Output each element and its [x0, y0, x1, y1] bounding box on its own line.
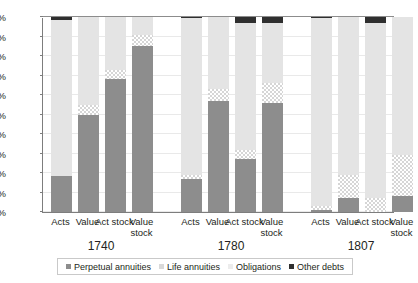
bar-segment-life	[262, 83, 283, 103]
bar-segment-obligations	[78, 17, 99, 105]
bar-segment-life	[208, 89, 229, 101]
bar-segment-obligations	[208, 17, 229, 89]
bar-segment-perpetual	[338, 198, 359, 212]
bar-segment-life	[78, 105, 99, 115]
x-axis-group-label-1780: 1780	[171, 239, 291, 253]
legend-item-obligations[interactable]: Obligations	[228, 262, 281, 272]
legend-label: Perpetual annuities	[74, 262, 151, 272]
y-axis-tick-70	[40, 75, 43, 76]
bar-segment-perpetual	[51, 176, 72, 212]
y-axis-tick-label-50: 50%	[0, 111, 6, 121]
bar-segment-obligations	[132, 17, 153, 35]
bar-1740-act-stock[interactable]	[105, 17, 126, 212]
legend-label: Obligations	[236, 262, 281, 272]
legend-item-life[interactable]: Life annuities	[159, 262, 220, 272]
y-axis-tick-30	[40, 153, 43, 154]
bar-segment-perpetual	[208, 101, 229, 212]
y-axis-tick-label-70: 70%	[0, 72, 6, 82]
legend-swatch-perpetual-icon	[66, 264, 71, 269]
bar-1740-acts[interactable]	[51, 17, 72, 212]
bar-segment-obligations	[365, 23, 386, 199]
x-axis-category-label: Value stock	[382, 217, 418, 238]
bar-1807-acts[interactable]	[311, 17, 332, 212]
legend-item-other[interactable]: Other debts	[289, 262, 344, 272]
plot-area	[42, 18, 394, 213]
chart-legend: Perpetual annuitiesLife annuitiesObligat…	[57, 258, 353, 275]
bar-segment-life	[132, 35, 153, 47]
legend-item-perpetual[interactable]: Perpetual annuities	[66, 262, 151, 272]
bar-segment-obligations	[338, 17, 359, 175]
x-axis-group-label-1740: 1740	[41, 239, 161, 253]
bar-1740-value[interactable]	[78, 17, 99, 212]
bar-segment-obligations	[235, 23, 256, 150]
bar-1780-act-stock[interactable]	[235, 17, 256, 212]
y-axis-tick-40	[40, 133, 43, 134]
y-axis-tick-label-60: 60%	[0, 91, 6, 101]
legend-swatch-obligations-icon	[228, 264, 233, 269]
y-axis-tick-10	[40, 192, 43, 193]
y-axis-tick-60	[40, 94, 43, 95]
y-axis-tick-80	[40, 55, 43, 56]
y-axis-tick-90	[40, 36, 43, 37]
y-axis-tick-label-0: 0%	[0, 208, 6, 218]
bar-segment-life	[338, 175, 359, 198]
bar-segment-perpetual	[105, 79, 126, 212]
bar-segment-obligations	[262, 23, 283, 83]
bar-segment-perpetual	[311, 210, 332, 212]
y-axis-tick-50	[40, 114, 43, 115]
bar-1807-act-stock[interactable]	[365, 17, 386, 212]
bar-segment-obligations	[392, 17, 413, 155]
bar-1807-value-stock[interactable]	[392, 17, 413, 212]
bar-segment-obligations	[105, 17, 126, 70]
legend-label: Other debts	[297, 262, 344, 272]
legend-swatch-life-icon	[159, 264, 164, 269]
y-axis-tick-label-90: 90%	[0, 33, 6, 43]
bar-1780-acts[interactable]	[181, 17, 202, 212]
bar-segment-life	[365, 198, 386, 212]
bar-segment-obligations	[51, 20, 72, 176]
x-axis-category-label: Value stock	[252, 217, 292, 238]
bar-segment-obligations	[311, 18, 332, 206]
y-axis-tick-20	[40, 172, 43, 173]
bar-1780-value[interactable]	[208, 17, 229, 212]
y-axis-tick-0	[40, 211, 43, 212]
bar-segment-life	[105, 70, 126, 80]
bar-segment-life	[392, 155, 413, 196]
y-axis-tick-label-20: 20%	[0, 169, 6, 179]
bar-segment-perpetual	[78, 115, 99, 213]
y-axis-tick-100	[40, 16, 43, 17]
y-axis-tick-label-30: 30%	[0, 150, 6, 160]
bar-segment-perpetual	[132, 46, 153, 212]
y-axis-tick-label-10: 10%	[0, 189, 6, 199]
legend-label: Life annuities	[167, 262, 220, 272]
y-axis-tick-label-80: 80%	[0, 52, 6, 62]
bar-segment-perpetual	[262, 103, 283, 212]
bar-1740-value-stock[interactable]	[132, 17, 153, 212]
x-axis-group-label-1807: 1807	[301, 239, 418, 253]
bar-segment-life	[235, 150, 256, 160]
y-axis-tick-label-100: 100%	[0, 13, 6, 23]
y-axis-tick-label-40: 40%	[0, 130, 6, 140]
bar-1780-value-stock[interactable]	[262, 17, 283, 212]
bar-1807-value[interactable]	[338, 17, 359, 212]
legend-swatch-other-icon	[289, 264, 294, 269]
bar-segment-perpetual	[181, 179, 202, 212]
bar-segment-obligations	[181, 18, 202, 175]
x-axis-category-label: Value stock	[122, 217, 162, 238]
bar-segment-perpetual	[392, 196, 413, 212]
bar-segment-perpetual	[235, 159, 256, 212]
